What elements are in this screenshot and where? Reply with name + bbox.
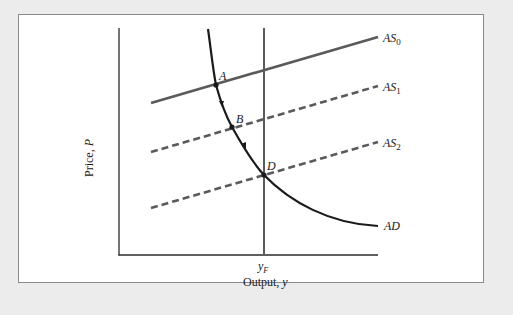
y-axis-title: Price, P [82, 138, 96, 177]
label-a: A [218, 69, 227, 83]
label-b: B [236, 112, 244, 126]
label-as1: AS1 [382, 80, 401, 96]
label-d: D [266, 159, 276, 173]
label-as2: AS2 [382, 136, 401, 152]
as-ad-chart: A B D AS0 AS1 AS2 AD yF Output, y Price,… [0, 0, 513, 315]
point-d [261, 172, 266, 177]
x-axis-title: Output, y [243, 275, 288, 289]
label-ad: AD [383, 219, 400, 233]
point-a [213, 82, 218, 87]
tick-label-yf: yF [257, 259, 268, 275]
label-as0: AS0 [382, 31, 401, 47]
point-b [229, 124, 234, 129]
